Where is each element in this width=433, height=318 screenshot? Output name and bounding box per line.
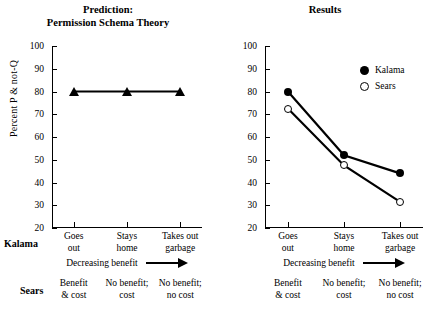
y-axis-tick-label: 80 (35, 88, 45, 98)
y-axis-tick-label: 100 (243, 42, 257, 52)
y-axis-tick-label: 30 (248, 202, 258, 212)
y-axis-label: Percent P & not-Q (8, 60, 19, 137)
data-point (340, 161, 348, 169)
row-label-kalama: Kalama (4, 238, 38, 249)
y-axis-tick-label: 60 (35, 133, 45, 143)
chart-title-line1: Prediction: (0, 4, 216, 17)
row-label-sears: Sears (20, 285, 43, 296)
right-arrow-icon (363, 258, 405, 268)
y-axis-tick-label: 50 (35, 156, 45, 166)
sears-category-label: No benefit;cost (105, 278, 148, 301)
panel-prediction: Prediction: Permission Schema Theory Per… (0, 0, 216, 318)
x-category-labels-kalama: GoesoutStayshomeTakes outgarbage (52, 231, 202, 261)
y-axis-tick-label: 50 (248, 156, 258, 166)
decreasing-benefit-text: Decreasing benefit (283, 258, 354, 268)
sears-category-label: No benefit;cost (322, 278, 365, 301)
sears-category-labels: Benefit& costNo benefit;costNo benefit;n… (52, 278, 202, 304)
series-lines (52, 46, 202, 228)
data-point (284, 88, 292, 96)
data-point (396, 169, 404, 177)
data-point (284, 105, 292, 113)
sears-category-label: No benefit;no cost (379, 278, 422, 301)
y-axis-tick-label: 70 (248, 111, 258, 121)
legend-item-sears: Sears (360, 78, 405, 94)
y-axis-tick-label: 40 (35, 179, 45, 189)
sears-category-label: Benefit& cost (274, 278, 302, 301)
data-point (122, 87, 132, 96)
open-circle-icon (360, 82, 369, 91)
y-axis-tick-label: 60 (248, 133, 258, 143)
data-point (69, 87, 79, 96)
y-axis-tick-label: 20 (248, 224, 258, 234)
y-axis-tick-label: 100 (30, 42, 44, 52)
y-axis-tick-label: 30 (35, 202, 45, 212)
decreasing-benefit-annotation: Decreasing benefit (265, 258, 423, 268)
y-axis-tick: 20 (265, 228, 270, 229)
decreasing-benefit-text: Decreasing benefit (66, 258, 137, 268)
y-axis-tick-label: 70 (35, 111, 45, 121)
y-axis-tick-label: 20 (35, 224, 45, 234)
panel-results: Results 1009080706050403020 GoesoutStays… (217, 0, 433, 318)
sears-category-label: Benefit& cost (60, 278, 88, 301)
data-point (340, 151, 348, 159)
x-category-label: Goesout (278, 231, 298, 254)
legend-label-sears: Sears (375, 78, 396, 94)
x-category-label: Goesout (64, 231, 84, 254)
x-category-label: Stayshome (116, 231, 137, 254)
legend-item-kalama: Kalama (360, 62, 405, 78)
data-point (396, 198, 404, 206)
legend-label-kalama: Kalama (375, 62, 405, 78)
figure-container: Prediction: Permission Schema Theory Per… (0, 0, 433, 318)
y-axis-tick-label: 40 (248, 179, 258, 189)
y-axis-tick-label: 90 (35, 65, 45, 75)
plot-area-prediction: 1009080706050403020 (52, 46, 202, 228)
filled-circle-icon (360, 66, 369, 75)
x-category-label: Stayshome (333, 231, 354, 254)
right-arrow-icon (146, 258, 188, 268)
legend: Kalama Sears (360, 62, 405, 94)
x-category-label: Takes outgarbage (382, 231, 419, 254)
data-point (175, 87, 185, 96)
sears-category-labels: Benefit& costNo benefit;costNo benefit;n… (265, 278, 423, 304)
y-axis-tick-label: 80 (248, 88, 258, 98)
chart-title-results: Results (217, 4, 433, 17)
chart-title-prediction: Prediction: Permission Schema Theory (0, 4, 216, 29)
chart-title-line2: Permission Schema Theory (0, 17, 216, 30)
x-category-label: Takes outgarbage (162, 231, 199, 254)
y-axis-tick-label: 90 (248, 65, 258, 75)
decreasing-benefit-annotation: Decreasing benefit (52, 258, 202, 268)
y-axis-tick: 20 (52, 228, 57, 229)
sears-category-label: No benefit;no cost (159, 278, 202, 301)
x-category-labels-kalama: GoesoutStayshomeTakes outgarbage (265, 231, 423, 261)
